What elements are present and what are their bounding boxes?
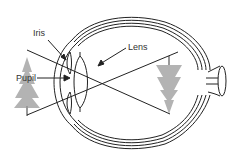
cornea bbox=[54, 40, 76, 126]
optic-nerve bbox=[206, 66, 226, 96]
label-iris: Iris bbox=[33, 29, 45, 38]
lens bbox=[74, 52, 88, 112]
iris bbox=[67, 52, 72, 114]
sclera-layers bbox=[72, 17, 210, 148]
image-tree-icon bbox=[156, 56, 182, 114]
label-pupil: Pupil bbox=[16, 74, 36, 83]
label-lens: Lens bbox=[128, 43, 148, 52]
object-tree-icon bbox=[14, 57, 40, 116]
light-rays bbox=[27, 50, 178, 115]
eye-diagram: Iris Lens Pupil bbox=[0, 0, 235, 164]
